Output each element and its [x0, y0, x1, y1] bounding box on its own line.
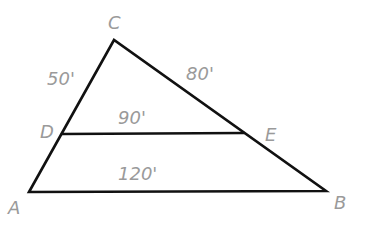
measurement-de: 90' [118, 109, 146, 127]
measurement-ab: 120' [118, 165, 157, 183]
label-point-c: C [108, 14, 121, 32]
triangle-abc [29, 40, 326, 192]
label-point-e: E [265, 126, 276, 144]
triangle-diagram [0, 0, 366, 229]
label-point-a: A [8, 199, 20, 217]
label-point-d: D [40, 123, 54, 141]
measurement-ce: 80' [186, 65, 214, 83]
measurement-cd: 50' [47, 70, 75, 88]
label-point-b: B [334, 194, 346, 212]
segment-de [62, 133, 244, 134]
